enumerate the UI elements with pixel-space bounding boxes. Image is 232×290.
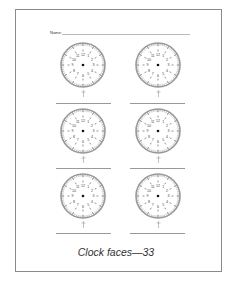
clock-number: 3 — [168, 63, 170, 67]
clock-face: 121234567891011 — [135, 108, 181, 154]
tick-mark-icon — [81, 90, 86, 97]
clock-icon: 121234567891011 — [60, 42, 106, 88]
clock-number: 1 — [162, 185, 164, 189]
clock-number: 7 — [152, 138, 154, 142]
answer-line[interactable] — [130, 103, 185, 104]
answer-line[interactable] — [130, 168, 185, 169]
clock-center-dot — [82, 195, 85, 198]
clock-number: 3 — [93, 129, 95, 133]
clock-number: 8 — [148, 135, 150, 139]
clock-number: 9 — [147, 129, 149, 133]
clock-center-dot — [82, 64, 85, 67]
tick-mark-icon — [156, 156, 161, 163]
clock-number: 10 — [72, 189, 76, 193]
clock-number: 5 — [162, 203, 164, 207]
clock-number: 7 — [77, 138, 79, 142]
clock-number: 1 — [162, 54, 164, 58]
clock-number: 4 — [166, 200, 168, 204]
clock-number: 2 — [91, 124, 93, 128]
worksheet-caption: Clock faces—33 — [0, 246, 232, 258]
tick-mark-icon — [156, 221, 161, 228]
clock-number: 3 — [93, 194, 95, 198]
clock-number: 6 — [157, 74, 159, 78]
clock-number: 5 — [162, 138, 164, 142]
clock-number: 7 — [152, 203, 154, 207]
tick-mark-icon — [81, 156, 86, 163]
clock-center-dot — [82, 130, 85, 133]
clock-face: 121234567891011 — [135, 42, 181, 88]
clock-number: 12 — [81, 119, 85, 123]
clock-number: 11 — [151, 54, 155, 58]
clock-number: 9 — [72, 129, 74, 133]
clock-number: 4 — [91, 200, 93, 204]
tick-mark-icon — [156, 90, 161, 97]
clock-number: 7 — [152, 72, 154, 76]
clock-center-dot — [157, 195, 160, 198]
clock-number: 5 — [87, 203, 89, 207]
clock-center-dot — [157, 130, 160, 133]
clock-number: 2 — [166, 58, 168, 62]
clock-number: 2 — [91, 58, 93, 62]
clock-number: 6 — [82, 74, 84, 78]
clock-face: 121234567891011 — [60, 173, 106, 219]
clock-number: 11 — [151, 120, 155, 124]
clock-number: 8 — [73, 200, 75, 204]
clock-number: 12 — [156, 119, 160, 123]
clock-number: 6 — [157, 140, 159, 144]
clock-number: 7 — [77, 72, 79, 76]
clock-number: 11 — [76, 54, 80, 58]
tick-mark-icon — [81, 221, 86, 228]
clock-number: 11 — [76, 120, 80, 124]
clock-number: 5 — [87, 72, 89, 76]
clock-icon: 121234567891011 — [60, 173, 106, 219]
clock-number: 3 — [168, 194, 170, 198]
name-input-line[interactable] — [62, 34, 190, 35]
clock-number: 1 — [87, 54, 89, 58]
clock-number: 8 — [73, 69, 75, 73]
clock-number: 9 — [147, 194, 149, 198]
clock-number: 8 — [73, 135, 75, 139]
clock-number: 10 — [147, 124, 151, 128]
clock-icon: 121234567891011 — [60, 108, 106, 154]
clock-number: 1 — [87, 185, 89, 189]
answer-line[interactable] — [130, 233, 185, 234]
clock-number: 5 — [87, 138, 89, 142]
clock-center-dot — [157, 64, 160, 67]
clock-number: 2 — [91, 189, 93, 193]
clock-number: 12 — [81, 53, 85, 57]
clock-number: 1 — [162, 120, 164, 124]
clock-number: 10 — [72, 124, 76, 128]
clock-number: 6 — [82, 205, 84, 209]
clock-number: 12 — [81, 184, 85, 188]
clock-number: 4 — [91, 135, 93, 139]
answer-line[interactable] — [56, 103, 111, 104]
clock-number: 8 — [148, 200, 150, 204]
clock-number: 6 — [157, 205, 159, 209]
worksheet-page — [15, 9, 222, 272]
clock-icon: 121234567891011 — [135, 108, 181, 154]
clock-number: 2 — [166, 124, 168, 128]
answer-line[interactable] — [56, 233, 111, 234]
clock-number: 1 — [87, 120, 89, 124]
clock-number: 10 — [72, 58, 76, 62]
clock-number: 4 — [166, 69, 168, 73]
clock-number: 4 — [91, 69, 93, 73]
answer-line[interactable] — [56, 168, 111, 169]
clock-number: 10 — [147, 58, 151, 62]
clock-number: 11 — [151, 185, 155, 189]
clock-number: 6 — [82, 140, 84, 144]
clock-number: 8 — [148, 69, 150, 73]
clock-icon: 121234567891011 — [135, 42, 181, 88]
clock-number: 12 — [156, 53, 160, 57]
clock-number: 12 — [156, 184, 160, 188]
clock-number: 10 — [147, 189, 151, 193]
clock-number: 4 — [166, 135, 168, 139]
clock-face: 121234567891011 — [60, 42, 106, 88]
clock-number: 9 — [72, 194, 74, 198]
name-label: Name: — [50, 30, 62, 35]
clock-number: 11 — [76, 185, 80, 189]
clock-number: 9 — [72, 63, 74, 67]
clock-face: 121234567891011 — [60, 108, 106, 154]
clock-number: 5 — [162, 72, 164, 76]
clock-number: 9 — [147, 63, 149, 67]
